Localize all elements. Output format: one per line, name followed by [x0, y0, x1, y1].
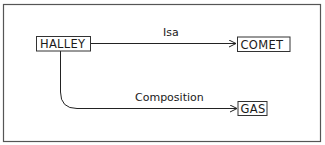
node-halley-label: HALLEY: [40, 37, 86, 51]
node-gas: GAS: [238, 102, 267, 116]
edge-label-isa: Isa: [163, 26, 179, 39]
edge-label-composition: Composition: [135, 91, 204, 104]
node-comet: COMET: [238, 37, 291, 52]
node-gas-label: GAS: [241, 102, 266, 116]
node-halley: HALLEY: [37, 37, 91, 52]
node-comet-label: COMET: [241, 38, 284, 52]
diagram-frame: [4, 5, 321, 142]
semantic-network-diagram: Isa Composition HALLEY COMET GAS: [0, 0, 325, 145]
